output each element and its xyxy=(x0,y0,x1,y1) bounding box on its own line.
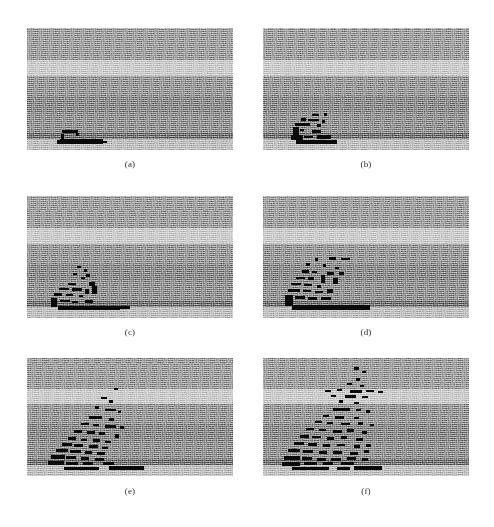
feature-blob xyxy=(304,462,316,465)
feature-blob xyxy=(317,458,326,461)
feature-blob xyxy=(370,424,374,426)
feature-blob xyxy=(296,277,305,280)
feature-blob xyxy=(325,390,331,392)
feature-blob xyxy=(105,425,115,427)
feature-blob xyxy=(59,288,69,291)
feature-blob xyxy=(51,455,65,459)
feature-blob xyxy=(58,306,120,310)
feature-blob xyxy=(312,130,320,132)
feature-blob xyxy=(306,263,310,265)
feature-blob xyxy=(323,415,329,418)
noise-layer-secondary xyxy=(263,196,469,318)
feature-blob xyxy=(81,423,89,426)
feature-blob xyxy=(86,274,90,276)
noise-layer-secondary xyxy=(27,28,233,150)
feature-blob xyxy=(304,136,313,138)
feature-blob xyxy=(68,437,76,440)
feature-blob xyxy=(315,258,318,260)
feature-blob xyxy=(77,266,80,268)
feature-blob xyxy=(335,416,344,419)
feature-blob xyxy=(319,429,326,432)
feature-blob xyxy=(72,288,81,290)
feature-blob xyxy=(366,390,374,393)
panel-image-e xyxy=(27,358,233,476)
panel-a: (a) xyxy=(27,28,233,172)
feature-blob xyxy=(57,140,62,144)
feature-blob xyxy=(341,423,349,426)
feature-blob xyxy=(295,296,305,299)
panel-image-c xyxy=(27,196,233,318)
feature-blob xyxy=(292,305,370,310)
feature-blob xyxy=(323,264,326,266)
feature-blob xyxy=(103,462,113,465)
panel-caption-c: (c) xyxy=(27,327,233,337)
feature-blob xyxy=(366,444,371,447)
feature-blob xyxy=(356,409,361,411)
feature-blob xyxy=(95,458,104,461)
feature-blob xyxy=(362,431,367,433)
feature-blob xyxy=(73,273,76,275)
feature-blob xyxy=(93,424,99,426)
feature-blob xyxy=(285,295,293,306)
feature-blob xyxy=(97,452,105,455)
feature-blob xyxy=(329,257,336,260)
feature-blob xyxy=(354,417,359,419)
feature-blob xyxy=(282,462,301,466)
feature-blob xyxy=(366,410,370,413)
feature-blob xyxy=(358,422,363,425)
feature-blob xyxy=(109,400,113,402)
feature-blob xyxy=(66,456,76,459)
feature-blob xyxy=(350,452,358,455)
panel-image-f xyxy=(263,358,469,476)
feature-blob xyxy=(288,449,300,453)
feature-blob xyxy=(323,444,330,447)
feature-blob xyxy=(115,434,120,439)
feature-blob xyxy=(327,272,334,275)
feature-blob xyxy=(60,139,103,144)
feature-blob xyxy=(315,291,323,294)
feature-blob xyxy=(308,443,317,446)
feature-blob xyxy=(93,439,100,442)
feature-blob xyxy=(48,461,64,465)
feature-blob xyxy=(303,290,310,292)
feature-blob xyxy=(302,270,309,273)
feature-blob xyxy=(337,467,349,470)
feature-blob xyxy=(85,300,93,303)
feature-blob xyxy=(51,298,58,307)
feature-blob xyxy=(288,289,300,292)
feature-blob xyxy=(300,435,309,438)
feature-blob xyxy=(99,432,105,435)
feature-blob xyxy=(337,444,345,447)
feature-blob xyxy=(378,391,383,393)
feature-blob xyxy=(66,294,73,296)
feature-blob xyxy=(308,119,318,121)
feature-blob xyxy=(341,258,349,260)
feature-blob xyxy=(317,285,322,288)
feature-blob xyxy=(327,289,333,293)
feature-blob xyxy=(84,269,87,271)
feature-blob xyxy=(300,129,304,131)
feature-blob xyxy=(294,442,304,445)
feature-blob xyxy=(362,396,368,398)
feature-blob xyxy=(76,133,79,136)
panel-caption-a: (a) xyxy=(27,159,233,169)
feature-blob xyxy=(296,140,337,144)
feature-blob xyxy=(312,114,318,116)
feature-blob xyxy=(79,295,83,297)
feature-blob xyxy=(293,127,299,135)
feature-blob xyxy=(354,466,383,470)
feature-blob xyxy=(101,397,107,399)
feature-blob xyxy=(56,449,68,453)
feature-blob xyxy=(101,141,107,143)
feature-blob xyxy=(109,418,113,421)
feature-blob xyxy=(292,467,329,470)
feature-blob xyxy=(341,436,347,439)
feature-blob xyxy=(341,462,353,465)
feature-blob xyxy=(95,406,99,408)
feature-blob xyxy=(347,457,355,460)
feature-blob xyxy=(105,441,111,444)
feature-blob xyxy=(333,278,338,284)
feature-blob xyxy=(317,135,331,139)
feature-blob xyxy=(322,120,325,123)
feature-blob xyxy=(335,267,339,269)
